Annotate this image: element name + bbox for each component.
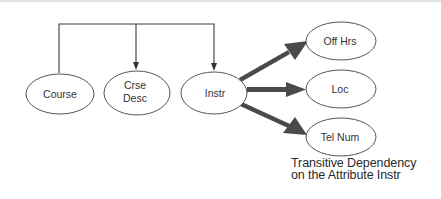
transitive-arrows	[239, 41, 308, 135]
node-label: Instr	[205, 87, 226, 99]
node-off-hrs: Off Hrs	[306, 22, 376, 60]
node-crse-desc: Crse Desc	[104, 71, 170, 115]
node-tel-num: Tel Num	[306, 118, 376, 156]
node-loc: Loc	[306, 70, 376, 108]
arrow-instr-to-loc	[247, 82, 306, 97]
caption-line-2: on the Attribute Instr	[291, 169, 416, 181]
node-label: Crse	[124, 79, 146, 91]
diagram-caption: Transitive Dependency on the Attribute I…	[291, 157, 416, 181]
node-label: Off Hrs	[323, 35, 356, 47]
node-course: Course	[26, 74, 94, 114]
course-dependency-bracket	[59, 24, 217, 73]
arrow-instr-to-off-hrs	[239, 41, 308, 82]
node-label: Desc	[123, 92, 147, 104]
node-label: Course	[43, 88, 77, 100]
arrowhead-instr	[211, 63, 217, 71]
arrowhead-crse-desc	[133, 62, 139, 70]
node-label: Loc	[332, 83, 349, 95]
arrow-instr-to-tel-num	[240, 102, 307, 135]
node-instr: Instr	[181, 72, 247, 114]
node-label: Tel Num	[321, 131, 360, 143]
